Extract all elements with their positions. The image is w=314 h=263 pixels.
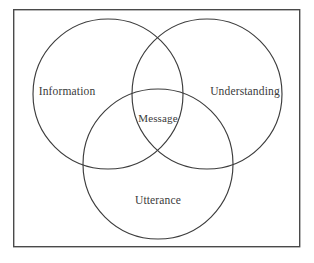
label-information: Information bbox=[39, 85, 96, 97]
label-understanding: Understanding bbox=[210, 85, 280, 98]
venn-diagram-canvas: Information Understanding Utterance Mess… bbox=[0, 0, 314, 263]
label-message: Message bbox=[138, 112, 178, 124]
venn-diagram-root: Information Understanding Utterance Mess… bbox=[0, 0, 314, 263]
label-utterance: Utterance bbox=[135, 194, 181, 206]
diagram-frame-border bbox=[14, 10, 300, 247]
